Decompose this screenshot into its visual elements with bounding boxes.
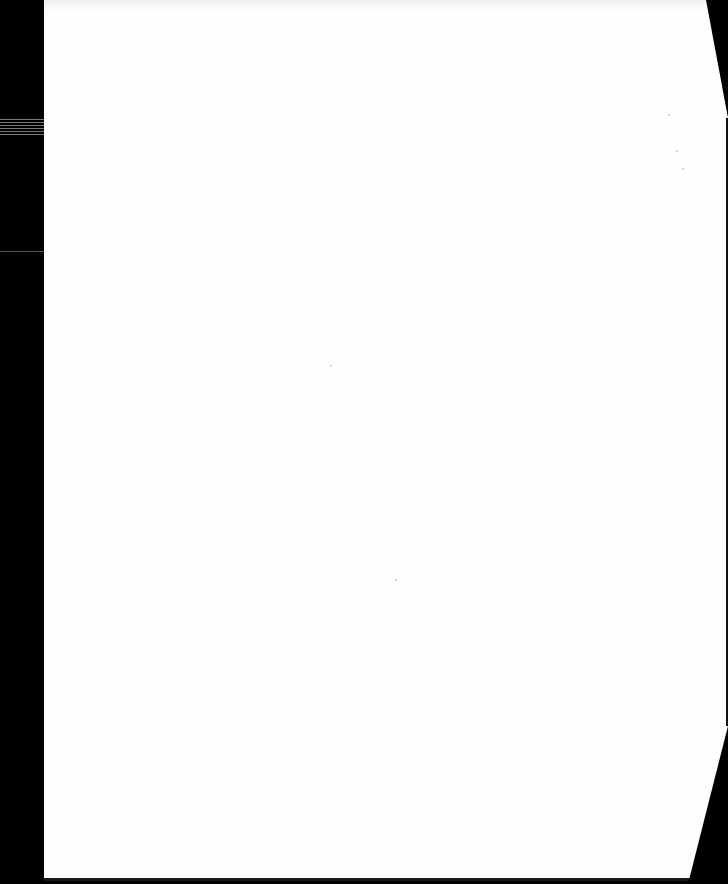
page-corner-shadow-top [706,0,728,118]
dust-speck [676,150,678,152]
dust-speck [330,365,332,367]
dust-speck [682,168,684,170]
scanner-artifact-line [0,251,44,252]
page-bottom-edge [44,878,728,881]
scanned-page [44,0,728,881]
page-corner-shadow-bottom [688,726,728,884]
dust-speck [668,114,670,116]
page-top-shadow [44,0,728,12]
scanner-artifact-lines [0,117,48,135]
dust-speck [395,579,397,581]
